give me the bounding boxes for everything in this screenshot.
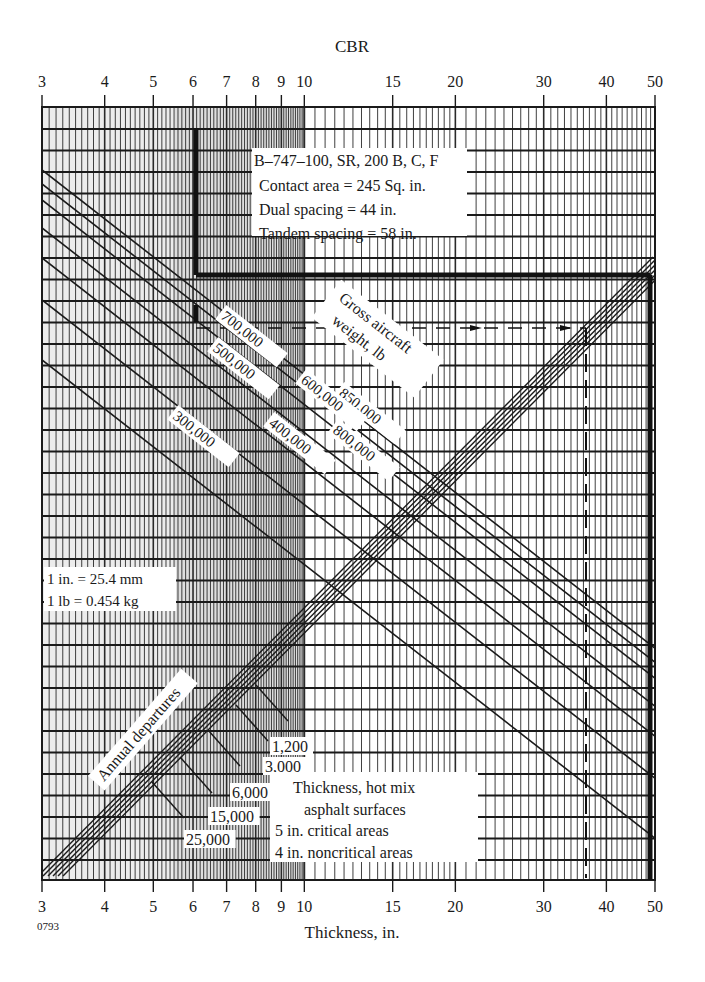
top-axis-ticks (42, 95, 655, 107)
departure-label-1200: 1,200 (270, 737, 313, 755)
svg-text:10: 10 (296, 898, 312, 915)
svg-text:8: 8 (252, 73, 260, 90)
conversion-lb: 1 lb = 0.454 kg (47, 593, 139, 609)
svg-text:5: 5 (149, 73, 157, 90)
svg-text:5 in. critical areas: 5 in. critical areas (275, 822, 389, 839)
svg-text:30: 30 (536, 73, 552, 90)
svg-text:40: 40 (598, 898, 614, 915)
svg-text:4 in. noncritical areas: 4 in. noncritical areas (275, 844, 413, 861)
svg-text:40: 40 (598, 73, 614, 90)
svg-text:4: 4 (101, 73, 109, 90)
conversion-inch: 1 in. = 25.4 mm (47, 571, 143, 587)
top-axis-tick-labels: 3456789101520304050 (38, 73, 663, 90)
departure-label-25000: 25,000 (184, 830, 236, 848)
svg-text:15: 15 (385, 73, 401, 90)
tandem-spacing: Tandem spacing = 58 in. (259, 225, 417, 243)
svg-text:50: 50 (647, 73, 663, 90)
design-chart: B–747–100, SR, 200 B, C, F Contact area … (0, 0, 705, 982)
svg-text:6: 6 (189, 898, 197, 915)
conversions-box: 1 in. = 25.4 mm 1 lb = 0.454 kg (44, 567, 176, 611)
svg-text:6: 6 (189, 73, 197, 90)
aircraft-info-box: B–747–100, SR, 200 B, C, F Contact area … (252, 148, 467, 243)
surface-thickness-note: Thickness, hot mix asphalt surfaces 5 in… (270, 772, 478, 862)
svg-text:8: 8 (252, 898, 260, 915)
svg-text:9: 9 (277, 898, 285, 915)
svg-text:6,000: 6,000 (232, 784, 268, 801)
svg-text:4: 4 (101, 898, 109, 915)
svg-text:15: 15 (385, 898, 401, 915)
svg-text:7: 7 (223, 898, 231, 915)
aircraft-model: B–747–100, SR, 200 B, C, F (254, 152, 439, 169)
departure-label-15000: 15,000 (208, 807, 260, 825)
x-axis-title: Thickness, in. (305, 923, 400, 942)
svg-text:Thickness, hot mix: Thickness, hot mix (293, 779, 415, 796)
dual-spacing: Dual spacing = 44 in. (259, 201, 396, 219)
svg-text:25,000: 25,000 (186, 831, 230, 848)
svg-text:1,200: 1,200 (272, 738, 308, 755)
svg-text:15,000: 15,000 (210, 808, 254, 825)
svg-text:7: 7 (223, 73, 231, 90)
departure-label-6000: 6,000 (230, 783, 273, 801)
figure-code: 0793 (37, 920, 60, 932)
contact-area: Contact area = 245 Sq. in. (259, 177, 426, 195)
svg-text:20: 20 (447, 73, 463, 90)
svg-text:50: 50 (647, 898, 663, 915)
svg-text:3: 3 (38, 898, 46, 915)
bottom-axis-tick-labels: 3456789101520304050 (38, 898, 663, 915)
top-axis-title: CBR (335, 37, 370, 56)
svg-text:10: 10 (296, 73, 312, 90)
svg-text:5: 5 (149, 898, 157, 915)
bottom-axis-ticks (42, 880, 655, 892)
svg-text:20: 20 (447, 898, 463, 915)
svg-text:9: 9 (277, 73, 285, 90)
svg-text:30: 30 (536, 898, 552, 915)
svg-text:3: 3 (38, 73, 46, 90)
svg-text:asphalt surfaces: asphalt surfaces (304, 801, 406, 819)
